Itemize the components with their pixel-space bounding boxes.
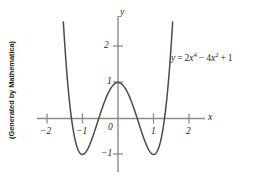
y-tick-label--1: −1: [101, 148, 112, 158]
equation-term2-exp: 2: [215, 51, 218, 58]
chart-figure: (Generated by Mathematica) −2 −1 0 1 2 2…: [0, 0, 265, 180]
y-tick-label-2: 2: [104, 40, 109, 50]
y-axis-label: y: [120, 6, 124, 17]
x-tick-label--2: −2: [40, 126, 51, 136]
origin-label: 0: [108, 122, 113, 132]
equation-constant: 1: [228, 53, 233, 63]
equation-plus: +: [220, 53, 225, 63]
x-tick-label-2: 2: [186, 126, 191, 136]
equation-term1-exp: 4: [194, 51, 197, 58]
curve-overlay: [0, 0, 265, 180]
equation-equals: =: [177, 53, 182, 63]
equation-minus: −: [199, 53, 204, 63]
x-tick-label-1: 1: [151, 126, 156, 136]
x-tick-label--1: −1: [76, 126, 87, 136]
x-axis-label: x: [208, 111, 212, 122]
equation-annotation: y=2x4−4x2+1: [171, 53, 232, 63]
y-tick-label-1: 1: [107, 76, 112, 86]
equation-lhs: y: [171, 53, 175, 63]
